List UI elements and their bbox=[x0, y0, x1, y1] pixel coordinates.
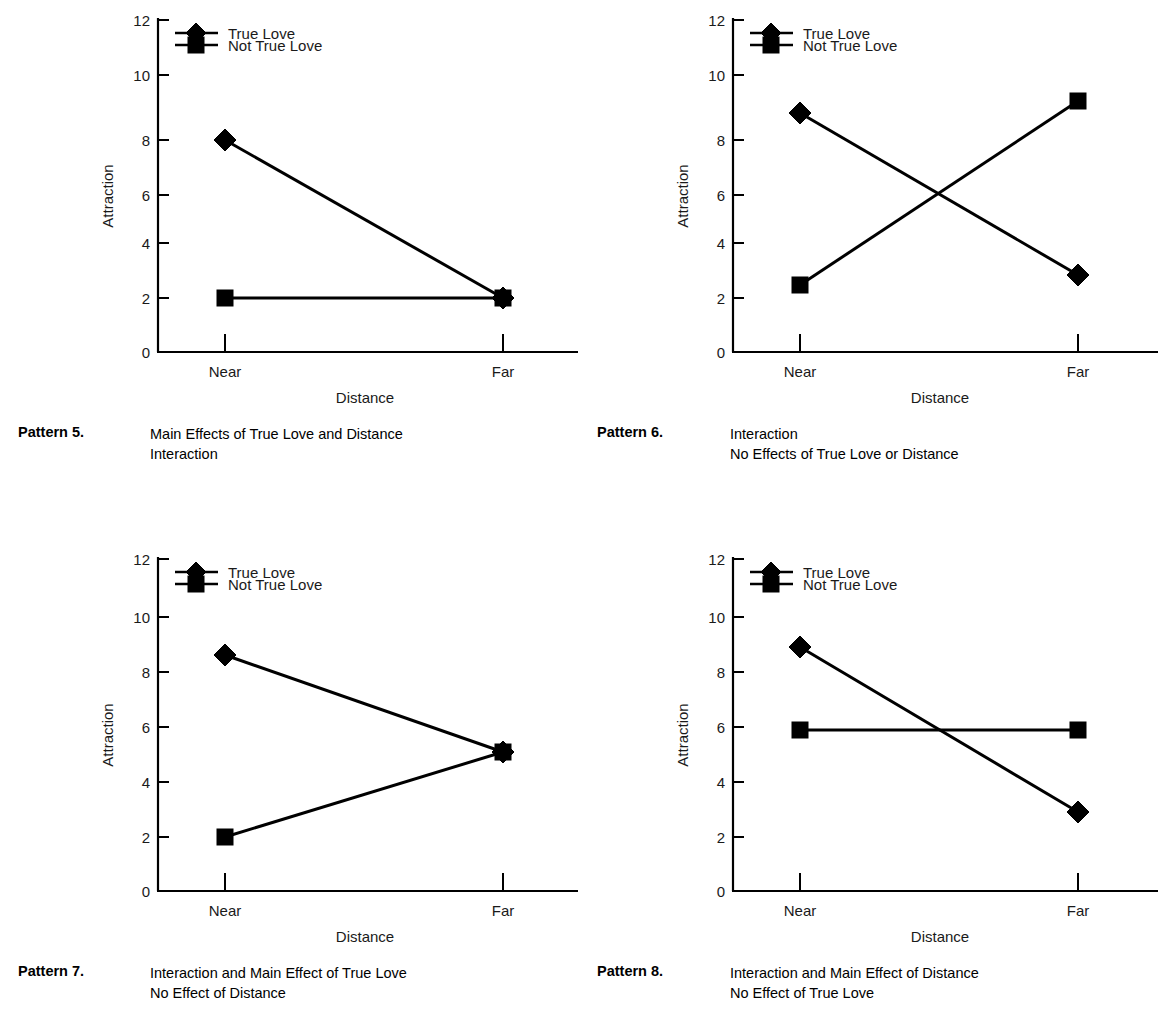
series-line-not-true-love bbox=[225, 752, 503, 837]
caption-text-pattern-7: Interaction and Main Effect of True Love… bbox=[150, 963, 570, 1003]
y-tick-label-8: 8 bbox=[717, 132, 725, 149]
marker-diamond-far bbox=[1067, 264, 1089, 286]
marker-square-near bbox=[792, 722, 808, 738]
legend-label-not-true-love: Not True Love bbox=[228, 576, 322, 593]
caption-text-pattern-5: Main Effects of True Love and Distance I… bbox=[150, 424, 550, 464]
y-tick-label-4: 4 bbox=[142, 235, 150, 252]
y-tick-label-4: 4 bbox=[717, 774, 725, 791]
legend-label-not-true-love: Not True Love bbox=[803, 576, 897, 593]
x-axis-title: Distance bbox=[336, 389, 394, 406]
series-not-true-love bbox=[217, 290, 511, 306]
x-axis-group: Near Far Distance bbox=[157, 873, 578, 945]
x-tick-label-far: Far bbox=[1067, 363, 1090, 380]
caption-text-pattern-8: Interaction and Main Effect of Distance … bbox=[730, 963, 1150, 1003]
x-tick-label-near: Near bbox=[209, 902, 242, 919]
y-tick-label-8: 8 bbox=[142, 132, 150, 149]
legend-group: True Love Not True Love bbox=[750, 23, 897, 54]
y-axis-title: Attraction bbox=[674, 164, 691, 227]
x-tick-label-near: Near bbox=[209, 363, 242, 380]
caption-text-pattern-6: Interaction No Effects of True Love or D… bbox=[730, 424, 1150, 464]
series-true-love bbox=[789, 102, 1089, 286]
x-tick-label-near: Near bbox=[784, 363, 817, 380]
y-axis-title: Attraction bbox=[99, 703, 116, 766]
legend-group: True Love Not True Love bbox=[175, 562, 322, 593]
marker-diamond-far bbox=[1067, 801, 1089, 823]
chart-svg-pattern-6: 12 10 8 6 4 2 0 Attraction Near Far Dist… bbox=[575, 0, 1158, 415]
marker-square-far bbox=[1070, 93, 1086, 109]
legend-group: True Love Not True Love bbox=[175, 23, 322, 54]
series-line-true-love bbox=[225, 655, 503, 752]
y-tick-label-12: 12 bbox=[708, 551, 725, 568]
y-tick-label-0: 0 bbox=[142, 883, 150, 900]
y-tick-label-6: 6 bbox=[717, 719, 725, 736]
marker-square-near bbox=[217, 290, 233, 306]
chart-panel-pattern-5: 12 10 8 6 4 2 0 Attraction Near Far Dist… bbox=[0, 0, 580, 415]
caption-label-pattern-7: Pattern 7. bbox=[18, 963, 84, 979]
x-tick-label-far: Far bbox=[492, 363, 515, 380]
caption-label-pattern-6: Pattern 6. bbox=[597, 424, 663, 440]
marker-diamond-near bbox=[214, 129, 236, 151]
chart-panel-pattern-8: 12 10 8 6 4 2 0 Attraction Near Far Dist… bbox=[575, 539, 1158, 954]
y-tick-label-4: 4 bbox=[142, 774, 150, 791]
y-tick-label-8: 8 bbox=[717, 664, 725, 681]
y-tick-label-0: 0 bbox=[142, 344, 150, 361]
y-tick-label-6: 6 bbox=[142, 719, 150, 736]
y-axis-title: Attraction bbox=[99, 164, 116, 227]
series-true-love bbox=[214, 129, 514, 309]
caption-label-pattern-8: Pattern 8. bbox=[597, 963, 663, 979]
marker-square-near bbox=[792, 277, 808, 293]
y-tick-label-10: 10 bbox=[133, 609, 150, 626]
chart-panel-pattern-7: 12 10 8 6 4 2 0 Attraction Near Far Dist… bbox=[0, 539, 580, 954]
y-tick-label-0: 0 bbox=[717, 344, 725, 361]
legend-marker-square-icon bbox=[188, 37, 204, 53]
x-axis-group: Near Far Distance bbox=[157, 334, 578, 406]
y-tick-label-10: 10 bbox=[708, 609, 725, 626]
y-tick-label-10: 10 bbox=[708, 67, 725, 84]
marker-diamond-near bbox=[214, 644, 236, 666]
x-tick-label-far: Far bbox=[1067, 902, 1090, 919]
y-tick-label-6: 6 bbox=[142, 187, 150, 204]
y-tick-label-12: 12 bbox=[708, 12, 725, 29]
x-axis-group: Near Far Distance bbox=[732, 334, 1158, 406]
chart-svg-pattern-5: 12 10 8 6 4 2 0 Attraction Near Far Dist… bbox=[0, 0, 580, 415]
legend-marker-square-icon bbox=[188, 576, 204, 592]
y-tick-label-2: 2 bbox=[717, 290, 725, 307]
y-axis-title: Attraction bbox=[674, 703, 691, 766]
series-line-true-love bbox=[225, 140, 503, 298]
series-line-true-love bbox=[800, 113, 1078, 275]
legend-marker-square-icon bbox=[763, 37, 779, 53]
y-axis-group: 12 10 8 6 4 2 0 Attraction bbox=[99, 551, 169, 900]
chart-panel-pattern-6: 12 10 8 6 4 2 0 Attraction Near Far Dist… bbox=[575, 0, 1158, 415]
series-not-true-love bbox=[217, 744, 511, 845]
y-tick-label-6: 6 bbox=[717, 187, 725, 204]
x-axis-title: Distance bbox=[336, 928, 394, 945]
x-tick-label-near: Near bbox=[784, 902, 817, 919]
x-axis-title: Distance bbox=[911, 928, 969, 945]
y-tick-label-2: 2 bbox=[142, 290, 150, 307]
marker-diamond-near bbox=[789, 102, 811, 124]
marker-diamond-near bbox=[789, 636, 811, 658]
y-tick-label-0: 0 bbox=[717, 883, 725, 900]
caption-label-pattern-5: Pattern 5. bbox=[18, 424, 84, 440]
y-tick-label-12: 12 bbox=[133, 12, 150, 29]
legend-label-not-true-love: Not True Love bbox=[228, 37, 322, 54]
legend-label-not-true-love: Not True Love bbox=[803, 37, 897, 54]
legend-group: True Love Not True Love bbox=[750, 562, 897, 593]
chart-svg-pattern-8: 12 10 8 6 4 2 0 Attraction Near Far Dist… bbox=[575, 539, 1158, 954]
y-tick-label-10: 10 bbox=[133, 67, 150, 84]
chart-svg-pattern-7: 12 10 8 6 4 2 0 Attraction Near Far Dist… bbox=[0, 539, 580, 954]
y-axis-group: 12 10 8 6 4 2 0 Attraction bbox=[674, 551, 744, 900]
series-true-love bbox=[214, 644, 514, 763]
x-axis-group: Near Far Distance bbox=[732, 873, 1158, 945]
y-tick-label-2: 2 bbox=[717, 829, 725, 846]
y-tick-label-12: 12 bbox=[133, 551, 150, 568]
marker-square-far bbox=[1070, 722, 1086, 738]
y-axis-group: 12 10 8 6 4 2 0 Attraction bbox=[99, 12, 169, 361]
marker-square-near bbox=[217, 829, 233, 845]
y-tick-label-2: 2 bbox=[142, 829, 150, 846]
y-tick-label-8: 8 bbox=[142, 664, 150, 681]
y-tick-label-4: 4 bbox=[717, 235, 725, 252]
x-axis-title: Distance bbox=[911, 389, 969, 406]
y-axis-group: 12 10 8 6 4 2 0 Attraction bbox=[674, 12, 744, 361]
legend-marker-square-icon bbox=[763, 576, 779, 592]
